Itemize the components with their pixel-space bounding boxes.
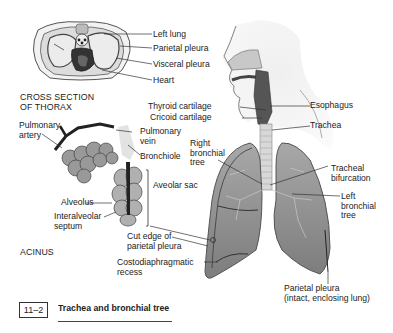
label-cut-edge-parietal-pleura: Cut edge of parietal pleura <box>127 232 181 251</box>
label-visceral-pleura: Visceral pleura <box>153 60 210 70</box>
label-tracheal-bifurcation-line1: Tracheal <box>331 163 364 173</box>
figure-title-underline <box>58 321 172 322</box>
label-thyroid-cartilage: Thyroid cartilage <box>148 102 212 112</box>
label-interalveolar-septum-line2: septum <box>54 221 82 231</box>
label-pulmonary-artery-line1: Pulmonary <box>19 120 60 130</box>
label-heart: Heart <box>153 76 174 86</box>
label-left-bronchial-tree-line2: bronchial <box>341 201 376 211</box>
label-costodiaphragmatic-line1: Costodiaphragmatic <box>117 257 193 267</box>
caption-cross-section-line2: OF THORAX <box>20 103 72 113</box>
label-cut-edge-line1: Cut edge of <box>127 231 171 241</box>
label-parietal-pleura-intact-line1: Parietal pleura <box>284 283 339 293</box>
label-interalveolar-septum: Interalveolar septum <box>54 212 101 231</box>
label-right-bronchial-tree-line2: bronchial <box>190 148 225 158</box>
label-left-bronchial-tree-line3: tree <box>341 210 356 220</box>
caption-acinus: ACINUS <box>20 248 54 258</box>
label-tracheal-bifurcation: Tracheal bifurcation <box>331 164 371 183</box>
label-left-lung: Left lung <box>153 30 186 40</box>
thorax-cross-section-drawing <box>33 22 152 80</box>
label-costodiaphragmatic-recess: Costodiaphragmatic recess <box>117 258 193 277</box>
label-esophagus: Esophagus <box>310 101 353 111</box>
label-bronchiole: Bronchiole <box>140 152 181 162</box>
label-parietal-pleura-intact-line2: (intact, enclosing lung) <box>284 293 370 303</box>
label-aveolar-sac: Aveolar sac <box>153 181 198 191</box>
label-costodiaphragmatic-line2: recess <box>117 267 142 277</box>
label-cut-edge-line2: parietal pleura <box>127 241 181 251</box>
label-tracheal-bifurcation-line2: bifurcation <box>331 173 371 183</box>
label-right-bronchial-tree: Right bronchial tree <box>190 139 225 168</box>
label-trachea: Trachea <box>310 121 341 131</box>
label-pulmonary-artery-line2: artery <box>19 130 41 140</box>
label-alveolus: Alveolus <box>61 198 93 208</box>
label-left-bronchial-tree: Left bronchial tree <box>341 192 376 221</box>
label-parietal-pleura-intact: Parietal pleura (intact, enclosing lung) <box>284 284 370 303</box>
figure-title: Trachea and bronchial tree <box>58 302 169 313</box>
label-right-bronchial-tree-line1: Right <box>190 138 210 148</box>
figure-number-box: 11–2 <box>19 302 48 318</box>
figure-canvas: Left lung Parietal pleura Visceral pleur… <box>0 0 393 333</box>
label-pulmonary-vein: Pulmonary vein <box>140 127 181 146</box>
label-pulmonary-vein-line1: Pulmonary <box>140 126 181 136</box>
label-cricoid-cartilage: Cricoid cartilage <box>150 113 212 123</box>
label-parietal-pleura: Parietal pleura <box>153 44 208 54</box>
label-pulmonary-artery: Pulmonary artery <box>19 121 60 140</box>
label-interalveolar-septum-line1: Interalveolar <box>54 211 101 221</box>
label-left-bronchial-tree-line1: Left <box>341 191 355 201</box>
label-right-bronchial-tree-line3: tree <box>190 157 205 167</box>
label-pulmonary-vein-line2: vein <box>140 136 156 146</box>
